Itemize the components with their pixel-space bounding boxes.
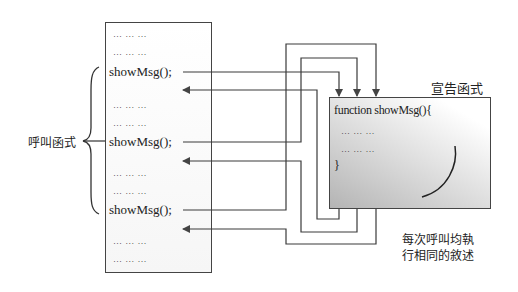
return-2-arrow	[183, 161, 357, 232]
return-3-arrow	[183, 209, 376, 244]
annotation-pointer	[422, 146, 456, 197]
call-1-arrow	[183, 72, 339, 96]
return-1-arrow	[183, 90, 339, 219]
connector-arrows	[0, 0, 518, 292]
call-3-arrow	[183, 44, 376, 210]
call-2-arrow	[183, 58, 357, 142]
function-call-diagram: … … … … … … showMsg(); … … … … … … showM…	[0, 0, 518, 292]
